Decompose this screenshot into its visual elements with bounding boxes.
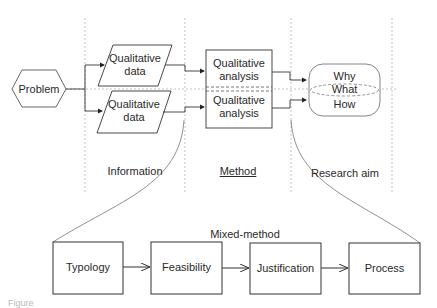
aim-how: How [309,98,380,111]
zoom-curve-right [291,120,420,243]
aim-what: What [309,83,380,96]
problem-label: Problem [12,83,66,96]
aim-why: Why [309,70,380,83]
problem-connectors [66,65,104,111]
analysis-connectors [272,72,306,108]
step-typology: Typology [53,261,123,274]
step-process: Process [349,262,420,275]
column-label-method: Method [200,165,276,178]
data-node-1-line1: Qualitative [103,52,167,65]
analysis-node-2-line2: analysis [206,107,272,120]
figure-caption: Figure [8,298,34,308]
step-feasibility: Feasibility [151,261,222,274]
zoom-curve-left [53,120,184,242]
step-justification: Justification [250,262,321,275]
analysis-node-1-line1: Qualitative [206,57,272,70]
data-node-2: Qualitative data [102,98,166,124]
data-connectors [163,65,204,112]
data-node-1: Qualitative data [103,52,167,78]
analysis-node-2: Qualitative analysis [206,94,272,120]
data-node-2-line1: Qualitative [102,98,166,111]
mixed-method-title: Mixed-method [200,228,290,241]
column-label-research-aim: Research aim [305,167,385,180]
analysis-node-1: Qualitative analysis [206,57,272,83]
column-label-information: Information [100,165,170,178]
data-node-2-line2: data [102,111,166,124]
analysis-node-2-line1: Qualitative [206,94,272,107]
analysis-node-1-line2: analysis [206,70,272,83]
data-node-1-line2: data [103,65,167,78]
